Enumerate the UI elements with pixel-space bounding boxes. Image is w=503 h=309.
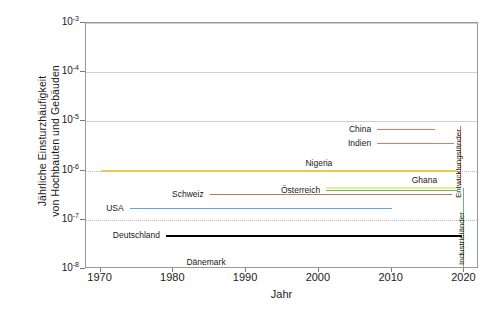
series-label-china: China: [349, 124, 371, 134]
y-tick-label--4: 10-4: [39, 64, 79, 76]
x-tick-mark-2000: [318, 268, 319, 272]
series-line-schweiz: [210, 194, 452, 195]
series-label-usa: USA: [106, 203, 123, 213]
x-tick-mark-1990: [245, 268, 246, 272]
gridline-y--5: [86, 121, 477, 122]
plot-area: ChinaIndienNigeriaGhanaÖsterreichSchweiz…: [85, 22, 478, 268]
series-label-nigeria: Nigeria: [305, 158, 332, 168]
x-tick-mark-2020: [463, 268, 464, 272]
x-tick-mark-2010: [391, 268, 392, 272]
group-caption-entwicklungslander: Entwicklungsländer: [454, 129, 463, 198]
x-axis-title: Jahr: [85, 288, 478, 300]
series-label-deutschland: Deutschland: [113, 230, 160, 240]
gridline-y--7: [86, 220, 477, 221]
y-tick-label--3: 10-3: [39, 15, 79, 27]
x-tick-label-2010: 2010: [366, 271, 416, 283]
x-tick-label-2000: 2000: [293, 271, 343, 283]
y-tick-label--7: 10-7: [39, 212, 79, 224]
series-line-osterreich: [326, 190, 457, 191]
gridline-y--3: [86, 23, 477, 24]
x-tick-mark-1980: [172, 268, 173, 272]
x-tick-label-1980: 1980: [147, 271, 197, 283]
y-tick-mark--8: [80, 268, 85, 269]
y-tick-label--5: 10-5: [39, 113, 79, 125]
y-axis-title: Jährliche Einsturzhäufigkeit von Hochbau…: [36, 0, 62, 286]
x-tick-label-1970: 1970: [75, 271, 125, 283]
chart-figure: Jährliche Einsturzhäufigkeit von Hochbau…: [0, 0, 503, 309]
x-tick-label-2020: 2020: [438, 271, 488, 283]
series-line-deutschland: [166, 235, 461, 237]
series-line-indien: [377, 143, 454, 144]
group-caption-industrielander: Industrieländer: [457, 212, 466, 265]
x-tick-mark-1970: [100, 268, 101, 272]
series-line-china: [377, 129, 435, 130]
series-line-nigeria: [101, 170, 458, 172]
series-label-indien: Indien: [348, 138, 371, 148]
x-tick-label-1990: 1990: [220, 271, 270, 283]
series-line-usa: [130, 208, 392, 209]
gridline-y--4: [86, 72, 477, 73]
series-label-ghana: Ghana: [412, 175, 438, 185]
series-line-ghana: [326, 187, 457, 189]
series-label-danemark: Dänemark: [186, 257, 225, 267]
series-label-schweiz: Schweiz: [172, 189, 204, 199]
y-tick-label--8: 10-8: [39, 261, 79, 273]
y-tick-label--6: 10-6: [39, 163, 79, 175]
